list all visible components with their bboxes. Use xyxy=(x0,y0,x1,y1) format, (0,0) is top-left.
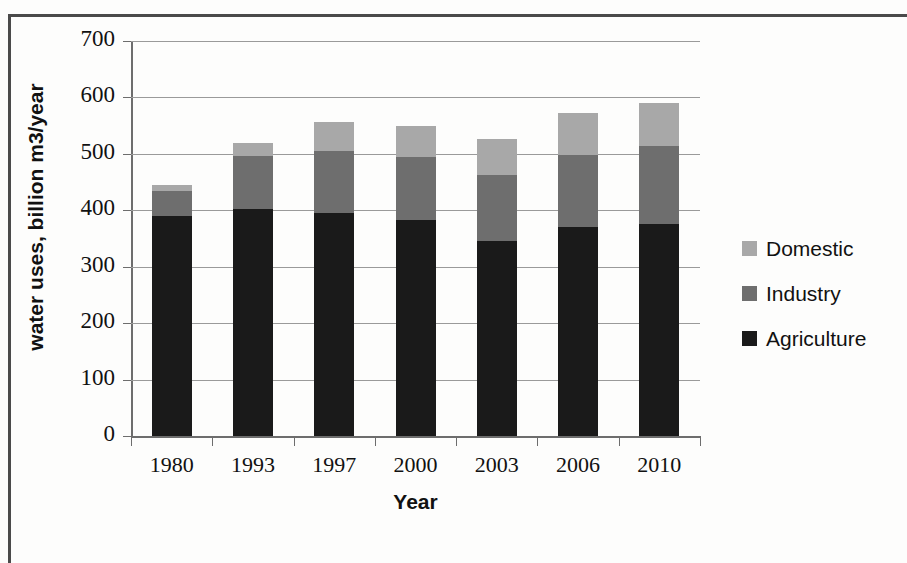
bar-stack[interactable] xyxy=(396,41,436,436)
bar-stack[interactable] xyxy=(152,41,192,436)
y-axis-tick-label: 600 xyxy=(55,82,115,108)
bar-stack[interactable] xyxy=(314,41,354,436)
bar-segment-agriculture[interactable] xyxy=(314,213,354,436)
legend-item-domestic[interactable]: Domestic xyxy=(742,226,902,271)
bar-segment-industry[interactable] xyxy=(233,156,273,208)
y-axis-tick-label: 400 xyxy=(55,195,115,221)
bar-segment-agriculture[interactable] xyxy=(233,209,273,436)
x-axis-tick-label: 2010 xyxy=(604,452,714,478)
bar-segment-agriculture[interactable] xyxy=(477,241,517,436)
bar-stack[interactable] xyxy=(558,41,598,436)
bar-segment-industry[interactable] xyxy=(558,155,598,227)
chart-legend: DomesticIndustryAgriculture xyxy=(742,226,902,361)
x-axis-tick xyxy=(375,437,376,446)
x-axis-tick xyxy=(131,437,132,446)
x-axis-tick xyxy=(294,437,295,446)
x-axis-tick xyxy=(700,437,701,446)
x-axis-tick xyxy=(619,437,620,446)
x-axis-tick xyxy=(212,437,213,446)
bar-stack[interactable] xyxy=(639,41,679,436)
bar-segment-industry[interactable] xyxy=(477,175,517,242)
x-axis-line xyxy=(131,436,701,438)
bar-stack[interactable] xyxy=(233,41,273,436)
legend-swatch-agriculture xyxy=(742,331,757,346)
y-axis-tick-label: 200 xyxy=(55,308,115,334)
legend-label: Agriculture xyxy=(766,327,866,351)
bar-segment-domestic[interactable] xyxy=(314,122,354,151)
x-axis-title: Year xyxy=(131,490,700,514)
stacked-bar-chart: 0100200300400500600700 19801993199720002… xyxy=(0,0,907,563)
bar-segment-domestic[interactable] xyxy=(477,139,517,175)
bar-segment-agriculture[interactable] xyxy=(396,220,436,436)
bar-segment-industry[interactable] xyxy=(152,191,192,216)
x-axis-tick xyxy=(537,437,538,446)
bar-segment-domestic[interactable] xyxy=(152,185,192,191)
scanned-page: 0100200300400500600700 19801993199720002… xyxy=(0,0,907,563)
bar-segment-industry[interactable] xyxy=(639,146,679,224)
bars-area xyxy=(131,41,700,436)
legend-item-industry[interactable]: Industry xyxy=(742,271,902,316)
bar-segment-domestic[interactable] xyxy=(396,126,436,158)
bar-segment-domestic[interactable] xyxy=(558,113,598,155)
y-axis-title: water uses, billion m3/year xyxy=(24,52,48,382)
legend-swatch-domestic xyxy=(742,241,757,256)
y-axis-tick-label: 300 xyxy=(55,252,115,278)
x-axis-tick xyxy=(456,437,457,446)
bar-segment-agriculture[interactable] xyxy=(558,227,598,436)
legend-swatch-industry xyxy=(742,286,757,301)
y-axis-tick-label: 500 xyxy=(55,139,115,165)
y-axis-tick-label: 100 xyxy=(55,365,115,391)
bar-segment-agriculture[interactable] xyxy=(152,216,192,436)
bar-segment-industry[interactable] xyxy=(314,151,354,213)
bar-segment-domestic[interactable] xyxy=(639,103,679,146)
bar-segment-agriculture[interactable] xyxy=(639,224,679,436)
y-axis-tick-label: 0 xyxy=(55,421,115,447)
bar-stack[interactable] xyxy=(477,41,517,436)
bar-segment-industry[interactable] xyxy=(396,157,436,220)
legend-label: Industry xyxy=(766,282,841,306)
legend-label: Domestic xyxy=(766,237,854,261)
y-axis-tick-label: 700 xyxy=(55,26,115,52)
bar-segment-domestic[interactable] xyxy=(233,143,273,157)
legend-item-agriculture[interactable]: Agriculture xyxy=(742,316,902,361)
